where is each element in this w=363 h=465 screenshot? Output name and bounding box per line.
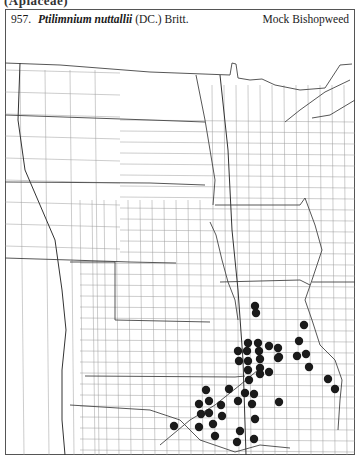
occurrence-dot [302,350,310,358]
occurrence-dot [331,385,339,393]
occurrence-dot [244,339,252,347]
occurrence-dot [211,432,219,440]
occurrence-dot [205,409,213,417]
occurrence-dot [233,438,241,446]
occurrence-dot [252,309,260,317]
occurrence-dot [244,366,252,374]
county-grid [5,70,355,455]
occurrence-dot [265,368,273,376]
occurrence-dot [250,390,258,398]
occurrence-dot [245,376,253,384]
occurrence-dot [236,427,244,435]
occurrence-dot [205,397,213,405]
occurrence-dot [324,375,332,383]
occurrence-dot [241,389,249,397]
occurrence-dot [197,410,205,418]
distribution-map [5,9,355,455]
occurrence-dot [251,415,259,423]
occurrence-dot [202,386,210,394]
occurrence-dot [305,363,313,371]
occurrence-dot [218,412,226,420]
occurrence-dot [256,355,264,363]
occurrence-dot [256,370,264,378]
occurrence-dot [217,401,225,409]
occurrence-dot [295,337,303,345]
occurrence-dot [265,342,273,350]
occurrence-dot [274,344,282,352]
occurrence-dot [235,357,243,365]
family-header: (Apiaceae) [4,0,68,9]
occurrence-dot [293,352,301,360]
occurrence-dot [274,354,282,362]
occurrence-dot [195,400,203,408]
occurrence-dot [275,398,283,406]
occurrence-dot [243,347,251,355]
occurrence-dot [250,435,258,443]
occurrence-dot [244,357,252,365]
occurrence-dot [255,347,263,355]
occurrence-dot [248,400,256,408]
occurrence-dot [195,423,203,431]
occurrence-dot [254,339,262,347]
occurrence-dot [300,321,308,329]
occurrence-dot [225,385,233,393]
occurrence-dot [234,397,242,405]
county-lines [5,70,355,455]
occurrence-dot [234,347,242,355]
occurrence-dot [209,420,217,428]
occurrence-dot [170,422,178,430]
